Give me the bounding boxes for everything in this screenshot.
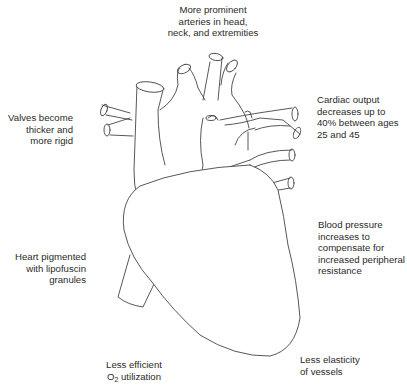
label-elasticity: Less elasticity of vessels: [300, 354, 360, 377]
label-valves: Valves become thicker and more rigid: [0, 112, 73, 147]
label-blood-pressure: Blood pressure increases to compensate f…: [318, 219, 405, 277]
label-o2-utilization: Less efficient O2 utilization: [104, 359, 164, 385]
label-pigment: Heart pigmented with lipofuscin granules: [0, 251, 86, 286]
label-cardiac-output: Cardiac output decreases up to 40% betwe…: [317, 94, 399, 140]
heart-illustration: [0, 0, 407, 387]
o2-line: O2 utilization: [104, 371, 164, 386]
ventricle: [123, 165, 300, 356]
label-prominent-arteries: More prominent arteries in head, neck, a…: [152, 4, 274, 39]
